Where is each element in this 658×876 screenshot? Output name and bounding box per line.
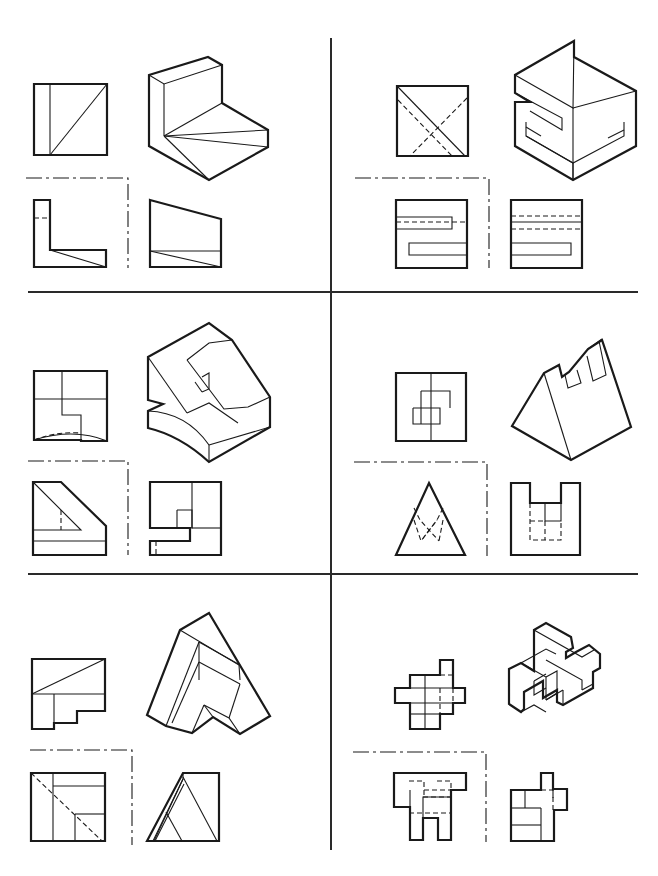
visible-edge (195, 382, 202, 392)
projection-fold-line (26, 178, 128, 268)
outline-edge (149, 57, 268, 180)
side-view (150, 482, 221, 555)
visible-edge (396, 217, 452, 229)
drawing-sheet: Panel 1 - L-bracket with triangular webP… (0, 0, 658, 876)
front-view (34, 200, 106, 267)
projection-fold-line (30, 750, 132, 845)
visible-edge (150, 251, 221, 267)
outline-edge (396, 200, 467, 268)
visible-edge (187, 403, 238, 423)
panel-4: Panel 4 - Triangular prism with notches (354, 339, 631, 556)
hidden-edge (398, 100, 452, 156)
outline-edge (511, 200, 582, 268)
outline-edge (395, 660, 465, 729)
top-view (396, 373, 466, 441)
outline-edge (147, 613, 270, 734)
outline-edge (394, 773, 466, 840)
isometric-view (515, 41, 636, 180)
visible-edge (154, 779, 183, 841)
side-view (150, 200, 221, 267)
outline-edge (34, 200, 106, 267)
side-view (147, 773, 219, 841)
isometric-view (147, 613, 270, 734)
panel-2: Panel 2 - Block with S-shaped slots (355, 41, 636, 268)
visible-edge (164, 130, 268, 136)
projection-fold-line (354, 462, 487, 556)
visible-edge (202, 373, 209, 392)
visible-edge (33, 482, 81, 530)
outline-edge (31, 773, 105, 841)
visible-edge (511, 243, 571, 255)
front-view (31, 773, 105, 841)
outline-edge (34, 371, 107, 441)
visible-edge (187, 360, 270, 409)
panel-dividers (28, 38, 638, 850)
panel-6: Panel 6 - Interlocking bars (353, 623, 600, 842)
visible-edge (526, 127, 541, 136)
visible-edge (573, 91, 636, 108)
visible-edge (180, 630, 240, 680)
hidden-edge (439, 520, 443, 541)
outline-edge (150, 482, 221, 555)
top-view (32, 659, 105, 729)
visible-edge (166, 812, 182, 841)
panel-5: Panel 5 - Angled wedge block (30, 613, 270, 845)
visible-edge (546, 671, 557, 690)
visible-edge (199, 662, 240, 684)
visible-edge (229, 684, 240, 718)
outline-edge (511, 773, 567, 841)
visible-edge (423, 797, 451, 818)
visible-edge (534, 674, 546, 681)
visible-edge (409, 243, 467, 255)
visible-edge (32, 659, 105, 694)
visible-edge (177, 510, 192, 528)
visible-edge (545, 503, 561, 521)
isometric-view (149, 57, 268, 180)
hidden-edge (409, 781, 424, 797)
outline-edge (509, 623, 600, 712)
hidden-edge (410, 98, 467, 156)
isometric-view (148, 323, 270, 462)
visible-edge (62, 371, 81, 441)
hidden-edge (414, 520, 437, 541)
projection-fold-line (353, 752, 486, 842)
visible-edge (155, 784, 184, 841)
outline-edge (396, 483, 465, 555)
visible-edge (515, 93, 562, 130)
outline-edge (515, 41, 636, 180)
side-view (511, 483, 580, 555)
hidden-edge (414, 508, 439, 541)
visible-edge (421, 391, 450, 408)
visible-edge (413, 408, 440, 424)
outline-edge (512, 340, 631, 460)
outline-edge (148, 323, 270, 462)
front-view (396, 200, 467, 268)
visible-edge (164, 136, 268, 147)
outline-edge (34, 84, 107, 155)
visible-edge (397, 86, 465, 156)
hidden-edge (437, 781, 451, 790)
visible-edge (521, 649, 556, 663)
top-view (397, 86, 468, 156)
visible-edge (50, 84, 107, 155)
top-view (395, 660, 465, 729)
visible-edge (50, 250, 106, 267)
front-view (396, 483, 465, 555)
visible-edge (187, 340, 232, 360)
visible-edge (546, 660, 582, 690)
side-view (511, 773, 567, 841)
panel-3: Panel 3 - Block with curved base and not… (28, 323, 270, 555)
top-view (34, 84, 107, 155)
panel-1: Panel 1 - L-bracket with triangular web (26, 57, 268, 268)
visible-edge (149, 65, 222, 84)
side-view (511, 200, 582, 268)
visible-edge (183, 777, 217, 841)
isometric-view (512, 339, 631, 460)
visible-edge (148, 357, 187, 413)
visible-edge (526, 122, 624, 163)
visible-edge (209, 427, 270, 445)
top-view (34, 371, 107, 441)
visible-edge (526, 136, 573, 163)
outline-edge (150, 200, 221, 267)
visible-edge (172, 662, 199, 723)
